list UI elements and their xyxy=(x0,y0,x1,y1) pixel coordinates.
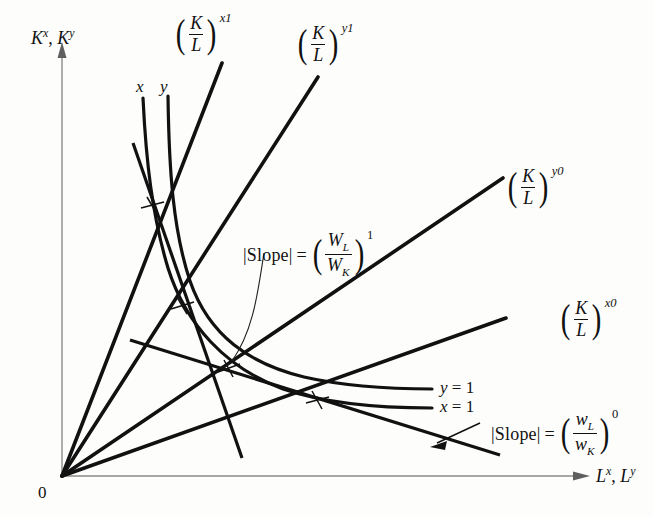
slope-0-num-sub: L xyxy=(588,420,594,432)
kl-y1-exponent: y1 xyxy=(342,22,354,35)
slope-0-lhs: |Slope| xyxy=(491,425,541,443)
slope-annotation-0: |Slope| = ( wL wK ) 0 xyxy=(491,410,618,458)
isoquant-label-y: y xyxy=(160,78,168,95)
ray-label-kl-y0: ( K L ) y0 xyxy=(506,167,563,208)
slope-1-lhs: |Slope| xyxy=(243,246,293,264)
paren-close-icon: ) xyxy=(592,303,602,336)
kl-x1-exponent: x1 xyxy=(220,12,232,25)
leader-group xyxy=(232,253,480,450)
isoquant-label-x: x xyxy=(136,78,144,95)
paren-close-icon: ) xyxy=(354,238,364,271)
paren-open-icon: ( xyxy=(561,303,571,336)
kl-x1-numerator: K xyxy=(188,14,204,34)
x-axis-label: Lx, Ly xyxy=(596,466,636,485)
slope-1-denominator: W xyxy=(327,255,342,275)
unit-x-eq: = 1 xyxy=(448,397,475,416)
figure-container: Kx, Ky Lx, Ly 0 x y ( K L ) x1 ( K L ) y… xyxy=(0,0,653,517)
kl-y0-exponent: y0 xyxy=(552,165,564,178)
slope-0-denominator: w xyxy=(575,434,587,454)
slope-0-den-sub: K xyxy=(587,445,594,457)
slope-1-num-sub: L xyxy=(343,241,349,253)
slope-0-equals: = xyxy=(541,425,559,443)
slope-annotation-1: |Slope| = ( WL WK ) 1 xyxy=(243,231,373,279)
slope-0-numerator: w xyxy=(576,409,588,429)
ray-kl-y0 xyxy=(62,178,503,476)
slope-1-den-sub: K xyxy=(342,266,349,278)
kl-y1-denominator: L xyxy=(311,44,325,65)
ray-label-kl-y1: ( K L ) y1 xyxy=(296,24,353,65)
kl-y0-denominator: L xyxy=(521,187,535,208)
kl-x0-denominator: L xyxy=(574,319,588,340)
paren-open-icon: ( xyxy=(313,238,323,271)
kl-x0-numerator: K xyxy=(573,299,589,319)
unit-y-eq: = 1 xyxy=(448,378,475,397)
paren-close-icon: ) xyxy=(599,417,609,450)
y-axis-label: Kx, Ky xyxy=(31,28,75,47)
origin-label: 0 xyxy=(38,484,47,501)
ray-label-kl-x1: ( K L ) x1 xyxy=(174,14,231,55)
unit-isoquant-label-y: y = 1 xyxy=(440,379,474,396)
kl-x0-exponent: x0 xyxy=(605,297,617,310)
unit-isoquant-label-x: x = 1 xyxy=(440,398,474,415)
kl-y1-numerator: K xyxy=(310,24,326,44)
paren-open-icon: ( xyxy=(298,28,308,61)
slope-0-exponent: 0 xyxy=(612,408,618,421)
paren-close-icon: ) xyxy=(329,28,339,61)
paren-open-icon: ( xyxy=(508,171,518,204)
paren-close-icon: ) xyxy=(207,18,217,51)
paren-open-icon: ( xyxy=(176,18,186,51)
slope-1-numerator: W xyxy=(328,230,343,250)
slope-1-equals: = xyxy=(293,246,311,264)
isocost-line-steep xyxy=(133,143,242,458)
unit-x-var: x xyxy=(440,397,448,416)
ray-label-kl-x0: ( K L ) x0 xyxy=(559,299,616,340)
kl-x1-denominator: L xyxy=(189,34,203,55)
x-axis-arrowhead xyxy=(573,472,590,481)
paren-close-icon: ) xyxy=(539,171,549,204)
slope-0-leader xyxy=(437,423,480,443)
slope-1-exponent: 1 xyxy=(367,229,373,242)
paren-open-icon: ( xyxy=(561,417,571,450)
ray-kl-x1 xyxy=(62,63,222,476)
unit-y-var: y xyxy=(440,378,448,397)
kl-y0-numerator: K xyxy=(520,167,536,187)
